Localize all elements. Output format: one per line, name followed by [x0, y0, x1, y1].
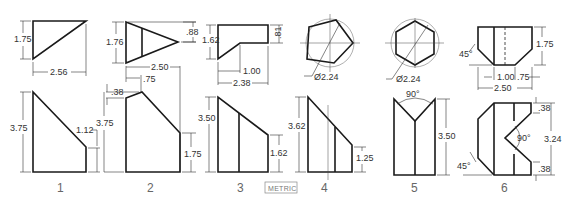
dim-1-top-width: 2.56: [50, 67, 68, 77]
problem-4-top-view: Ø2.24: [300, 14, 360, 82]
problem-5-front-view: 90° 3.50: [394, 89, 456, 175]
dim-6-front-top-notch: .38: [538, 103, 551, 113]
dim-3-top-height: 1.62: [202, 35, 220, 45]
problem-5-label: 5: [411, 181, 418, 195]
dim-6-front-chamfer-angle: 45°: [457, 161, 471, 171]
problem-6-label: 6: [501, 181, 508, 195]
dim-6-top-bottom-width: 1.00: [497, 72, 515, 82]
problem-2: 1.76 .88 2.50 .75 .38 3.75: [96, 22, 202, 195]
problem-3-front-view: 3.50 1.62: [198, 97, 288, 172]
problem-6: 45° 1.75 1.00 .75 2.50 90°: [457, 27, 562, 195]
dim-2-top-inner: .75: [143, 74, 156, 84]
dim-2-front-right: 1.75: [184, 149, 202, 159]
problem-5: Ø2.24 90° 3.50 5: [385, 18, 456, 195]
dim-6-front-height: 3.24: [544, 134, 562, 144]
problem-4-label: 4: [321, 181, 328, 195]
problem-4-front-view: 3.62 1.25: [288, 97, 374, 180]
dim-6-top-angle: 45°: [459, 49, 473, 59]
dim-5-angle: 90°: [406, 89, 420, 99]
dim-3-top-width: 2.38: [233, 78, 251, 88]
dim-6-top-right-offset: .75: [517, 72, 530, 82]
problem-1-label: 1: [57, 181, 64, 195]
problem-2-label: 2: [147, 181, 154, 195]
dim-3-front-right: 1.62: [270, 148, 288, 158]
dim-3-top-right: .81: [273, 26, 283, 39]
problem-2-front-view: .38 3.75 1.75: [96, 84, 202, 172]
dim-6-front-bottom-notch: .38: [538, 164, 551, 174]
dim-1-front-height: 3.75: [10, 123, 28, 133]
dim-2-front-height: 3.75: [96, 118, 114, 128]
metric-badge-text: METRIC: [268, 185, 297, 192]
dim-4-front-right: 1.25: [356, 153, 374, 163]
problem-4: Ø2.24 3.62 1.25 4: [288, 14, 374, 195]
problem-6-top-view: 45° 1.75 1.00 .75 2.50: [459, 27, 554, 93]
dim-3-front-height: 3.50: [198, 113, 216, 123]
dim-3-top-inner-width: 1.00: [243, 66, 261, 76]
dim-4-diameter: Ø2.24: [314, 72, 339, 82]
dim-2-top-height: 1.76: [106, 37, 124, 47]
dim-5-front-height: 3.50: [438, 131, 456, 141]
dim-6-front-angle: 90°: [517, 133, 531, 143]
dim-4-front-height: 3.62: [288, 121, 306, 131]
problem-3-label: 3: [237, 181, 244, 195]
dim-6-top-width: 2.50: [494, 83, 512, 93]
dim-2-top-width: 2.50: [151, 62, 169, 72]
dim-5-diameter: Ø2.24: [396, 74, 421, 84]
dim-1-top-height: 1.75: [14, 34, 32, 44]
dim-6-top-height: 1.75: [536, 39, 554, 49]
problem-1-front-view: 3.75 1.12: [10, 92, 100, 172]
dim-2-front-left-top: .38: [111, 87, 124, 97]
multiview-drawing-sheet: 1.75 2.56 3.75 1.12 1: [0, 0, 571, 201]
problem-5-top-view: Ø2.24: [385, 18, 444, 84]
problem-1: 1.75 2.56 3.75 1.12 1: [10, 21, 100, 195]
problem-6-front-view: 90° .38 .38 3.24 45°: [457, 97, 562, 181]
problem-1-top-view: 1.75 2.56: [14, 21, 86, 77]
dim-1-front-right: 1.12: [76, 125, 94, 135]
problem-3: 1.62 .81 1.00 2.38 .88 3.50: [183, 22, 297, 195]
dim-2-top-tip: .88: [186, 27, 199, 37]
